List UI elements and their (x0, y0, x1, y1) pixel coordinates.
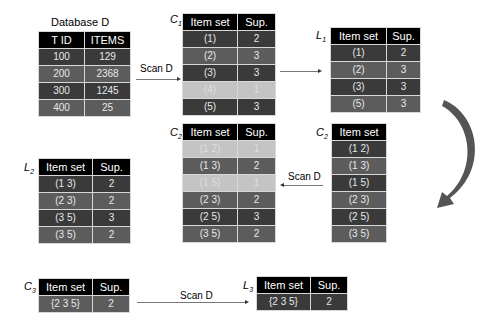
cell: 200 (39, 66, 85, 83)
cell: 2 (311, 294, 348, 311)
cell: 2 (238, 31, 276, 48)
c2-counted-table: Item set Sup. (1 2)1 (1 3)2 (1 5)1 (2 3)… (182, 123, 276, 243)
cell: 25 (85, 100, 131, 117)
table-row: (1 3) (332, 158, 387, 175)
c2-candidates-label: C2 (316, 126, 328, 140)
header-itemset: Item set (331, 28, 387, 45)
l2-label: L2 (24, 161, 34, 175)
cell: (3 5) (332, 226, 387, 243)
c3-table: Item set Sup. {2 3 5}2 (38, 278, 130, 313)
cell: (2) (183, 48, 238, 65)
table-row: (3 5) (332, 226, 387, 243)
cell: 3 (238, 65, 276, 82)
table-row-pruned: (1 5)1 (183, 175, 276, 192)
c2-counted-label: C2 (170, 126, 182, 140)
cell: (5) (183, 99, 238, 116)
l1-table: Item set Sup. (1)2 (2)3 (3)3 (5)3 (330, 27, 421, 113)
cell: (1 5) (332, 175, 387, 192)
cell: {2 3 5} (39, 296, 93, 313)
cell: (2 3) (183, 192, 238, 209)
cell: (2 3) (332, 192, 387, 209)
table-row: {2 3 5}2 (257, 294, 348, 311)
header-itemset: Item set (39, 159, 93, 176)
cell: 129 (85, 49, 131, 66)
arrow-db-to-c1 (136, 79, 178, 80)
cell: (5) (331, 96, 387, 113)
cell: (1) (331, 45, 387, 62)
table-row: (2 5)3 (183, 209, 276, 226)
table-row: (2)3 (183, 48, 276, 65)
arrow-c3-to-l3 (137, 302, 245, 303)
header-tid: T ID (39, 32, 85, 49)
table-row: (5)3 (183, 99, 276, 116)
cell: 3 (238, 99, 276, 116)
cell: 3 (387, 96, 421, 113)
table-row: (2)3 (331, 62, 421, 79)
cell: 1 (238, 175, 276, 192)
cell: 2 (93, 176, 131, 193)
cell: {2 3 5} (257, 294, 311, 311)
header-sup: Sup. (238, 124, 276, 141)
cell: 3 (238, 209, 276, 226)
cell: (3) (183, 65, 238, 82)
header-sup: Sup. (387, 28, 421, 45)
table-row-pruned: (1 2)1 (183, 141, 276, 158)
table-row-pruned: (4)1 (183, 82, 276, 99)
scan-label-3: Scan D (180, 290, 213, 301)
cell: 3 (387, 79, 421, 96)
cell: (1 3) (332, 158, 387, 175)
l1-label: L1 (316, 29, 326, 43)
cell: (2 5) (332, 209, 387, 226)
c1-table: Item set Sup. (1)2 (2)3 (3)3 (4)1 (5)3 (182, 13, 276, 116)
header-sup: Sup. (93, 279, 130, 296)
header-itemset: Item set (39, 279, 93, 296)
cell: (1 3) (183, 158, 238, 175)
cell: 2 (93, 193, 131, 210)
table-row: (2 3)2 (39, 193, 131, 210)
database-table: T ID ITEMS 100 129 200 2368 300 1245 400… (38, 31, 131, 117)
cell: 1 (238, 141, 276, 158)
c2-candidates-table: Item set (1 2) (1 3) (1 5) (2 3) (2 5) (… (331, 123, 387, 243)
header-itemset: Item set (332, 124, 387, 141)
cell: 2368 (85, 66, 131, 83)
table-row: (3 5)3 (39, 210, 131, 227)
arrowhead-right-icon (318, 69, 322, 73)
table-row: (1 5) (332, 175, 387, 192)
table-row: (3)3 (183, 65, 276, 82)
cell: (3 5) (183, 226, 238, 243)
header-sup: Sup. (93, 159, 131, 176)
table-row: (1)2 (331, 45, 421, 62)
l2-table: Item set Sup. (1 3)2 (2 3)2 (3 5)3 (3 5)… (38, 158, 131, 244)
cell: 2 (238, 192, 276, 209)
arrow-c2-to-c2 (283, 185, 323, 186)
cell: (1 2) (183, 141, 238, 158)
table-row: (1 2) (332, 141, 387, 158)
cell: 3 (387, 62, 421, 79)
table-row: {2 3 5}2 (39, 296, 130, 313)
database-title: Database D (51, 16, 109, 28)
cell: 2 (238, 226, 276, 243)
table-row: (1)2 (183, 31, 276, 48)
header-itemset: Item set (183, 124, 238, 141)
table-row: (1 3)2 (183, 158, 276, 175)
table-row: (2 3) (332, 192, 387, 209)
l3-label: L3 (243, 279, 253, 293)
table-row: 200 2368 (39, 66, 131, 83)
scan-label-2: Scan D (288, 171, 321, 182)
cell: 1 (238, 82, 276, 99)
table-row: (2 5) (332, 209, 387, 226)
l3-table: Item set Sup. {2 3 5}2 (256, 276, 348, 311)
table-row: (3 5)2 (39, 227, 131, 244)
cell: (4) (183, 82, 238, 99)
c3-label: C3 (24, 280, 36, 294)
cell: 2 (387, 45, 421, 62)
header-itemset: Item set (257, 277, 311, 294)
cell: (3 5) (39, 210, 93, 227)
cell: (2) (331, 62, 387, 79)
cell: (1 3) (39, 176, 93, 193)
table-row: (5)3 (331, 96, 421, 113)
cell: 1245 (85, 83, 131, 100)
arrowhead-left-icon (280, 183, 284, 187)
cell: (3 5) (39, 227, 93, 244)
cell: (1 5) (183, 175, 238, 192)
